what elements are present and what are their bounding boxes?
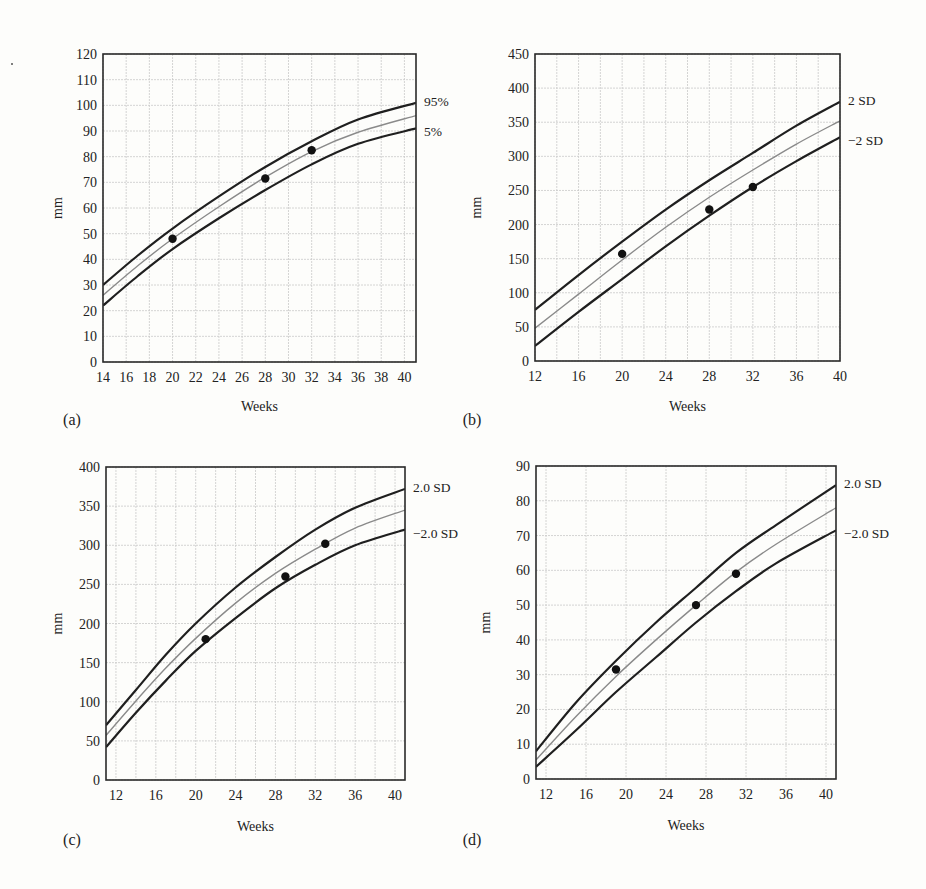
- x-tick-label: 36: [351, 370, 365, 385]
- y-tick-label: 30: [516, 668, 530, 683]
- curve-mean: [536, 508, 836, 760]
- x-axis-label: Weeks: [668, 818, 705, 833]
- grid: [106, 467, 405, 780]
- x-tick-label: 20: [166, 370, 180, 385]
- y-axis-label: mm: [50, 613, 65, 635]
- measurement-point: [749, 183, 757, 191]
- scan-speck: [11, 63, 13, 65]
- x-tick-label: 24: [229, 788, 243, 803]
- x-tick-label: 28: [702, 369, 716, 384]
- y-tick-label: 150: [79, 656, 100, 671]
- y-tick-label: 450: [508, 47, 529, 62]
- x-axis-label: Weeks: [669, 399, 706, 414]
- y-tick-label: 70: [516, 529, 530, 544]
- x-tick-label: 26: [235, 370, 249, 385]
- y-tick-label: 350: [508, 115, 529, 130]
- y-tick-label: 300: [508, 149, 529, 164]
- y-tick-label: 40: [83, 252, 97, 267]
- x-tick-label: 28: [258, 370, 272, 385]
- x-tick-label: 24: [659, 787, 673, 802]
- curve-label: 95%: [424, 94, 449, 109]
- y-tick-label: 90: [83, 124, 97, 139]
- curve-label: 2.0 SD: [413, 480, 451, 495]
- y-tick-label: 50: [86, 734, 100, 749]
- panel-label: (c): [63, 831, 81, 849]
- y-tick-label: 10: [516, 737, 530, 752]
- y-tick-label: 100: [79, 695, 100, 710]
- x-tick-label: 20: [619, 787, 633, 802]
- measurement-point: [321, 539, 329, 547]
- y-tick-label: 200: [79, 617, 100, 632]
- y-tick-label: 400: [508, 81, 529, 96]
- y-tick-label: 50: [516, 598, 530, 613]
- y-tick-label: 0: [522, 354, 529, 369]
- x-tick-label: 16: [149, 788, 163, 803]
- curve-label: 2.0 SD: [844, 476, 882, 491]
- curve-label: −2.0 SD: [844, 526, 889, 541]
- x-tick-label: 28: [268, 788, 282, 803]
- y-tick-label: 150: [508, 252, 529, 267]
- grid: [103, 54, 416, 362]
- y-tick-label: 80: [83, 150, 97, 165]
- x-tick-label: 32: [739, 787, 753, 802]
- measurement-point: [201, 635, 209, 643]
- y-tick-label: 250: [79, 577, 100, 592]
- curves: [103, 103, 416, 306]
- curve-label: −2 SD: [848, 133, 883, 148]
- y-tick-label: 20: [516, 702, 530, 717]
- x-tick-label: 36: [789, 369, 803, 384]
- y-tick-label: 0: [523, 772, 530, 787]
- x-tick-label: 16: [572, 369, 586, 384]
- curve-median: [103, 116, 416, 296]
- x-tick-label: 18: [142, 370, 156, 385]
- measurement-point: [168, 235, 176, 243]
- chart-panel-d: 01020304050607080901216202428323640Weeks…: [463, 459, 890, 849]
- y-tick-label: 250: [508, 183, 529, 198]
- x-axis-label: Weeks: [237, 819, 274, 834]
- y-tick-label: 80: [516, 494, 530, 509]
- panel-label: (b): [463, 411, 482, 429]
- y-tick-label: 100: [76, 98, 97, 113]
- y-tick-label: 30: [83, 278, 97, 293]
- x-tick-label: 40: [388, 788, 402, 803]
- y-tick-label: 200: [508, 218, 529, 233]
- curve-5-: [103, 128, 416, 305]
- panel-label: (a): [63, 411, 81, 429]
- x-tick-label: 40: [397, 370, 411, 385]
- x-axis-label: Weeks: [241, 399, 278, 414]
- x-tick-label: 24: [212, 370, 226, 385]
- y-tick-label: 90: [516, 459, 530, 474]
- chart-panel-a: 0102030405060708090100110120141618202224…: [50, 47, 449, 429]
- x-tick-label: 12: [528, 369, 542, 384]
- x-tick-label: 38: [374, 370, 388, 385]
- y-tick-label: 400: [79, 460, 100, 475]
- grid: [535, 54, 840, 361]
- figure-stage: 0102030405060708090100110120141618202224…: [0, 0, 926, 889]
- x-tick-label: 20: [189, 788, 203, 803]
- plot-frame: [536, 466, 836, 779]
- measurement-point: [612, 665, 620, 673]
- curve-label: 2 SD: [848, 93, 876, 108]
- x-tick-label: 28: [699, 787, 713, 802]
- curve-label: 5%: [424, 124, 442, 139]
- y-tick-label: 350: [79, 499, 100, 514]
- x-tick-label: 20: [615, 369, 629, 384]
- y-axis-label: mm: [50, 197, 65, 219]
- x-tick-label: 36: [779, 787, 793, 802]
- measurement-point: [281, 572, 289, 580]
- x-tick-label: 40: [833, 369, 847, 384]
- chart-panel-b: 0501001502002503003504004501216202428323…: [463, 47, 884, 429]
- y-tick-label: 120: [76, 47, 97, 62]
- y-tick-label: 0: [90, 355, 97, 370]
- y-tick-label: 50: [83, 227, 97, 242]
- curve--2-0-sd: [536, 530, 836, 766]
- x-tick-label: 40: [819, 787, 833, 802]
- measurement-point: [692, 601, 700, 609]
- panel-label: (d): [463, 831, 482, 849]
- x-tick-label: 16: [579, 787, 593, 802]
- curve-label: −2.0 SD: [413, 526, 458, 541]
- x-tick-label: 34: [328, 370, 342, 385]
- y-tick-label: 0: [93, 773, 100, 788]
- y-tick-label: 50: [515, 320, 529, 335]
- y-tick-label: 20: [83, 304, 97, 319]
